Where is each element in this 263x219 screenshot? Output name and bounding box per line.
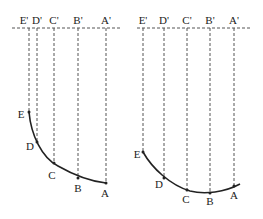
left-label-c: C bbox=[48, 169, 55, 181]
left-panel: E' D' C' B' A' E D C B A bbox=[12, 14, 122, 199]
right-point-a bbox=[233, 185, 236, 188]
right-label-d: D bbox=[155, 178, 163, 190]
right-label-c-prime: C' bbox=[182, 14, 191, 26]
right-point-e bbox=[142, 151, 145, 154]
right-label-e: E bbox=[134, 148, 141, 160]
left-point-d bbox=[36, 141, 39, 144]
left-label-e: E bbox=[18, 108, 25, 120]
right-label-b-prime: B' bbox=[205, 14, 214, 26]
left-point-a bbox=[105, 182, 108, 185]
left-label-a: A bbox=[101, 187, 109, 199]
left-label-b: B bbox=[74, 182, 81, 194]
right-label-a: A bbox=[230, 189, 238, 201]
left-curve bbox=[29, 112, 106, 183]
left-label-e-prime: E' bbox=[20, 14, 29, 26]
left-label-c-prime: C' bbox=[49, 14, 58, 26]
right-point-c bbox=[186, 189, 189, 192]
right-label-b: B bbox=[206, 195, 213, 207]
left-label-d-prime: D' bbox=[32, 14, 42, 26]
right-label-d-prime: D' bbox=[159, 14, 169, 26]
left-point-c bbox=[53, 162, 56, 165]
left-label-d: D bbox=[26, 140, 34, 152]
right-label-a-prime: A' bbox=[229, 14, 239, 26]
diagram-canvas: E' D' C' B' A' E D C B A E' D' C' B' A' … bbox=[0, 0, 263, 219]
left-point-e bbox=[28, 111, 31, 114]
right-label-c: C bbox=[182, 193, 189, 205]
left-label-a-prime: A' bbox=[101, 14, 111, 26]
right-panel: E' D' C' B' A' E D C B A bbox=[134, 14, 252, 207]
right-label-e-prime: E' bbox=[139, 14, 148, 26]
left-point-b bbox=[77, 177, 80, 180]
left-label-b-prime: B' bbox=[73, 14, 82, 26]
